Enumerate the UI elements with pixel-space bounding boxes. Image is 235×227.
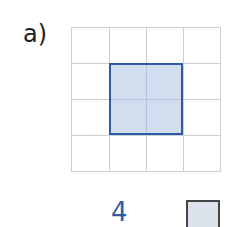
grid-line bbox=[220, 27, 221, 172]
unit-square-icon bbox=[186, 200, 220, 227]
answer-value: 4 bbox=[111, 199, 128, 225]
grid-line bbox=[183, 27, 184, 172]
exercise-label: a) bbox=[23, 22, 47, 46]
inner-grid-line bbox=[146, 65, 147, 133]
grid-line bbox=[71, 27, 72, 172]
shaded-square bbox=[109, 63, 183, 135]
grid bbox=[71, 27, 221, 172]
